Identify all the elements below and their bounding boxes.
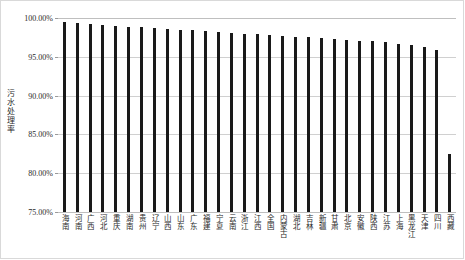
bar bbox=[384, 42, 387, 212]
chart-frame: 污水处理率 100.00%95.00%90.00%85.00%80.00%75.… bbox=[0, 0, 464, 259]
x-label-slot: 全国 bbox=[264, 214, 277, 260]
bar bbox=[281, 36, 284, 212]
x-label-slot: 湖南 bbox=[122, 214, 135, 260]
x-axis-tick-label: 江西 bbox=[253, 214, 261, 230]
y-axis-tick-mark bbox=[55, 173, 58, 174]
bar-slot bbox=[225, 18, 238, 212]
bar-slot bbox=[135, 18, 148, 212]
x-label-slot: 云南 bbox=[225, 214, 238, 260]
bar-slot bbox=[430, 18, 443, 212]
x-axis-tick-label: 北京 bbox=[343, 214, 351, 230]
bar bbox=[76, 23, 79, 212]
bar bbox=[243, 34, 246, 212]
x-axis-tick-label: 贵州 bbox=[138, 214, 146, 230]
bar bbox=[230, 33, 233, 212]
x-axis-tick-label: 新疆 bbox=[318, 214, 326, 230]
bar-slot bbox=[392, 18, 405, 212]
x-label-slot: 天津 bbox=[418, 214, 431, 260]
x-axis-tick-label: 广东 bbox=[189, 214, 197, 230]
x-axis-tick-label: 上海 bbox=[395, 214, 403, 230]
bar-slot bbox=[109, 18, 122, 212]
bar-series bbox=[58, 18, 456, 212]
y-axis-title: 污水处理率 bbox=[3, 51, 17, 171]
bar bbox=[423, 47, 426, 212]
x-axis-tick-label: 重庆 bbox=[112, 214, 120, 230]
bar-slot bbox=[251, 18, 264, 212]
bar-slot bbox=[276, 18, 289, 212]
x-axis-tick-label: 安徽 bbox=[356, 214, 364, 230]
bar-slot bbox=[148, 18, 161, 212]
x-axis-tick-label: 宁夏 bbox=[215, 214, 223, 230]
x-axis-tick-label: 云南 bbox=[228, 214, 236, 230]
bar bbox=[435, 50, 438, 212]
bar bbox=[127, 27, 130, 212]
bar-slot bbox=[289, 18, 302, 212]
y-axis-tick-mark bbox=[55, 96, 58, 97]
bar-slot bbox=[443, 18, 456, 212]
x-label-slot: 河南 bbox=[71, 214, 84, 260]
bar-slot bbox=[302, 18, 315, 212]
x-axis-tick-label: 河北 bbox=[99, 214, 107, 230]
bar-slot bbox=[418, 18, 431, 212]
y-axis-tick-label: 85.00% bbox=[1, 130, 53, 139]
x-axis-tick-label: 陕西 bbox=[369, 214, 377, 230]
x-axis-tick-label: 甘肃 bbox=[330, 214, 338, 230]
bar-slot bbox=[58, 18, 71, 212]
y-axis-tick-mark bbox=[55, 57, 58, 58]
y-axis-tick-mark bbox=[55, 212, 58, 213]
x-label-slot: 海南 bbox=[58, 214, 71, 260]
x-label-slot: 广西 bbox=[84, 214, 97, 260]
x-axis-tick-label: 福建 bbox=[202, 214, 210, 230]
gridline bbox=[58, 212, 456, 213]
bar bbox=[333, 39, 336, 212]
x-axis-tick-label: 内蒙古 bbox=[279, 214, 287, 238]
bar-slot bbox=[379, 18, 392, 212]
y-axis-tick-label: 95.00% bbox=[1, 52, 53, 61]
x-axis-tick-label: 辽宁 bbox=[151, 214, 159, 230]
bar-slot bbox=[366, 18, 379, 212]
x-label-slot: 吉林 bbox=[302, 214, 315, 260]
bar bbox=[256, 34, 259, 212]
x-axis-tick-label: 黑龙江 bbox=[407, 214, 415, 238]
x-axis-tick-label: 天津 bbox=[420, 214, 428, 230]
x-axis-tick-labels: 海南河南广西河北重庆湖南贵州辽宁山西山东广东福建宁夏云南浙江江西全国内蒙古湖北吉… bbox=[58, 214, 456, 260]
x-label-slot: 陕西 bbox=[366, 214, 379, 260]
bar-slot bbox=[71, 18, 84, 212]
bar-slot bbox=[315, 18, 328, 212]
x-label-slot: 内蒙古 bbox=[276, 214, 289, 260]
bar-slot bbox=[84, 18, 97, 212]
x-label-slot: 江西 bbox=[251, 214, 264, 260]
bar bbox=[179, 30, 182, 212]
bar bbox=[166, 29, 169, 212]
x-axis-tick-label: 吉林 bbox=[305, 214, 313, 230]
x-label-slot: 江苏 bbox=[379, 214, 392, 260]
x-label-slot: 山东 bbox=[174, 214, 187, 260]
bar-slot bbox=[199, 18, 212, 212]
bar bbox=[371, 41, 374, 212]
bar bbox=[114, 26, 117, 212]
x-label-slot: 重庆 bbox=[109, 214, 122, 260]
x-label-slot: 山西 bbox=[161, 214, 174, 260]
x-label-slot: 上海 bbox=[392, 214, 405, 260]
x-axis-tick-label: 广西 bbox=[86, 214, 94, 230]
bar-slot bbox=[353, 18, 366, 212]
x-label-slot: 湖北 bbox=[289, 214, 302, 260]
x-axis-tick-label: 山东 bbox=[176, 214, 184, 230]
x-label-slot: 浙江 bbox=[238, 214, 251, 260]
plot-area bbox=[58, 18, 456, 212]
x-axis-tick-label: 湖北 bbox=[292, 214, 300, 230]
y-axis-tick-label: 80.00% bbox=[1, 169, 53, 178]
bar-slot bbox=[174, 18, 187, 212]
x-axis-tick-label: 湖南 bbox=[125, 214, 133, 230]
bar bbox=[140, 27, 143, 212]
y-axis-tick-label: 75.00% bbox=[1, 208, 53, 217]
x-axis-tick-label: 全国 bbox=[266, 214, 274, 230]
bar bbox=[268, 35, 271, 212]
bar-slot bbox=[405, 18, 418, 212]
bar-slot bbox=[186, 18, 199, 212]
bar bbox=[448, 154, 451, 212]
y-axis-tick-label: 100.00% bbox=[1, 14, 53, 23]
bar bbox=[89, 24, 92, 212]
bar-slot bbox=[122, 18, 135, 212]
bar bbox=[294, 37, 297, 212]
